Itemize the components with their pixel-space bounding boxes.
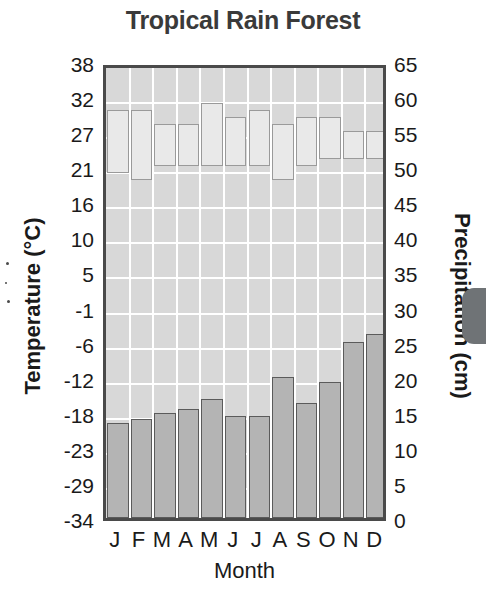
temperature-bar — [272, 377, 294, 518]
temperature-bar — [178, 409, 200, 518]
temperature-bar — [343, 342, 365, 518]
month-label: J — [221, 527, 245, 553]
left-axis-tick-label: 38 — [71, 54, 94, 75]
precipitation-bar — [131, 110, 153, 180]
precipitation-bar — [249, 110, 271, 166]
precipitation-bar — [154, 124, 176, 166]
left-axis-tick-label: -6 — [75, 335, 94, 356]
month-label: A — [174, 527, 198, 553]
right-axis-tick-label: 55 — [394, 124, 417, 145]
temperature-bar — [107, 423, 129, 518]
precipitation-bar — [178, 124, 200, 166]
left-axis-title: Temperature (°C) — [20, 181, 46, 431]
left-axis-tick-label: -29 — [64, 475, 94, 496]
climograph-figure: Tropical Rain Forest 3832272116105-1-6-1… — [0, 0, 486, 611]
left-axis-tick-label: -23 — [64, 440, 94, 461]
temperature-bar — [366, 334, 386, 518]
right-axis-tick-label: 5 — [394, 475, 406, 496]
right-axis-tick-label: 20 — [394, 370, 417, 391]
precipitation-bar — [319, 117, 341, 159]
left-axis-tick-label: 16 — [71, 194, 94, 215]
right-axis-tick-label: 30 — [394, 300, 417, 321]
month-label: A — [268, 527, 292, 553]
temperature-bar — [319, 382, 341, 518]
month-label: J — [103, 527, 127, 553]
right-axis-tick-label: 10 — [394, 440, 417, 461]
left-axis-tick-label: 32 — [71, 89, 94, 110]
temperature-bar — [249, 416, 271, 518]
month-label: J — [245, 527, 269, 553]
left-axis-tick-label: -18 — [64, 405, 94, 426]
temperature-bar — [154, 413, 176, 518]
precipitation-bar — [225, 117, 247, 166]
scan-speck — [6, 262, 9, 265]
left-axis-tick-label: 5 — [82, 264, 94, 285]
precipitation-bar — [366, 131, 386, 159]
temperature-bar — [296, 403, 318, 518]
month-label: M — [150, 527, 174, 553]
month-label: N — [339, 527, 363, 553]
right-axis-tick-label: 45 — [394, 194, 417, 215]
month-label: F — [127, 527, 151, 553]
left-axis-tick-label: 27 — [71, 124, 94, 145]
right-axis-tick-label: 25 — [394, 335, 417, 356]
precipitation-bar — [107, 110, 129, 173]
x-axis-title: Month — [103, 558, 386, 584]
temperature-bar — [201, 399, 223, 518]
left-axis-tick-label: -1 — [75, 300, 94, 321]
plot-area — [103, 65, 386, 521]
right-axis-tick-label: 50 — [394, 159, 417, 180]
page-tab-artifact — [462, 288, 486, 344]
right-axis-tick-label: 65 — [394, 54, 417, 75]
right-axis-tick-label: 35 — [394, 264, 417, 285]
right-axis-tick-label: 0 — [394, 510, 406, 531]
left-axis-tick-label: 21 — [71, 159, 94, 180]
month-label: O — [315, 527, 339, 553]
temperature-bar — [225, 416, 247, 518]
right-axis-tick-label: 40 — [394, 229, 417, 250]
temperature-bar — [131, 419, 153, 518]
month-label: M — [197, 527, 221, 553]
right-axis-tick-label: 60 — [394, 89, 417, 110]
precipitation-bar — [201, 103, 223, 166]
precipitation-bar — [296, 117, 318, 166]
scan-speck — [5, 282, 7, 284]
right-axis-ticks: 65605550454035302520151050 — [394, 0, 454, 611]
left-axis-tick-label: -12 — [64, 370, 94, 391]
month-label: D — [362, 527, 386, 553]
right-axis-tick-label: 15 — [394, 405, 417, 426]
precipitation-bar — [343, 131, 365, 159]
scan-speck — [7, 300, 10, 303]
left-axis-tick-label: -34 — [64, 510, 94, 531]
left-axis-tick-label: 10 — [71, 229, 94, 250]
x-axis-month-labels: JFMAMJJASOND — [103, 527, 386, 557]
precipitation-bar — [272, 124, 294, 180]
month-label: S — [292, 527, 316, 553]
